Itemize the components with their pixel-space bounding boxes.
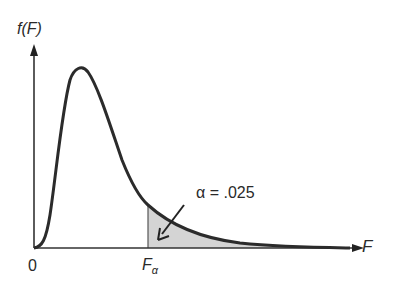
y-axis-label: f(F) — [17, 20, 42, 38]
f-alpha-sub: α — [152, 264, 158, 276]
origin-label: 0 — [28, 257, 37, 275]
alpha-annotation: α = .025 — [196, 184, 255, 202]
x-axis-label: F — [362, 237, 372, 257]
y-axis-arrow-icon — [30, 44, 38, 56]
f-distribution-chart: f(F) F 0 Fα α = .025 — [0, 0, 395, 289]
density-curve — [34, 68, 350, 248]
chart-canvas — [0, 0, 395, 289]
f-alpha-label: Fα — [142, 256, 158, 276]
f-alpha-main: F — [142, 256, 152, 273]
